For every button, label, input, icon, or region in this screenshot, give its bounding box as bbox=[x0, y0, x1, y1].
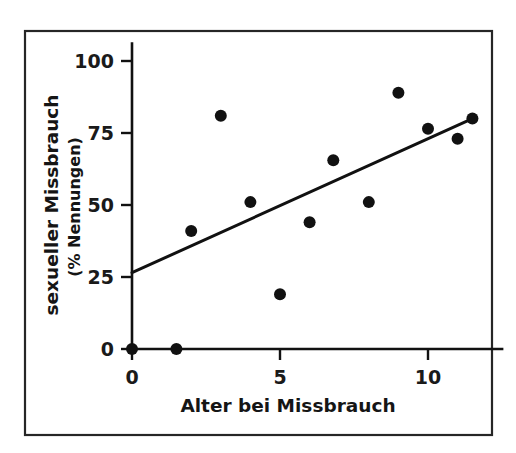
y-tick-label: 75 bbox=[88, 122, 114, 144]
data-point bbox=[327, 154, 339, 166]
data-point bbox=[392, 87, 404, 99]
y-tick-label: 50 bbox=[88, 194, 114, 216]
data-point bbox=[126, 343, 138, 355]
y-tick-label: 0 bbox=[101, 338, 114, 360]
x-tick-label: 0 bbox=[125, 366, 138, 388]
x-tick-label: 10 bbox=[415, 366, 441, 388]
data-point bbox=[185, 225, 197, 237]
data-point bbox=[274, 288, 286, 300]
data-point bbox=[215, 110, 227, 122]
data-point bbox=[422, 123, 434, 135]
x-tick-label: 5 bbox=[273, 366, 286, 388]
data-point bbox=[170, 343, 182, 355]
figure-container: 0255075100 0510 Alter bei Missbrauch sex… bbox=[0, 0, 516, 453]
data-point bbox=[363, 196, 375, 208]
y-tick-label: 100 bbox=[74, 50, 114, 72]
x-axis-title: Alter bei Missbrauch bbox=[180, 395, 395, 416]
y-axis-subtitle: (% Nennungen) bbox=[65, 137, 84, 277]
data-point bbox=[452, 133, 464, 145]
data-point bbox=[466, 113, 478, 125]
scatter-plot: 0255075100 0510 Alter bei Missbrauch sex… bbox=[0, 0, 516, 453]
data-point bbox=[304, 216, 316, 228]
y-tick-label: 25 bbox=[88, 266, 114, 288]
y-axis-title: sexueller Missbrauch bbox=[41, 95, 62, 316]
data-point bbox=[244, 196, 256, 208]
